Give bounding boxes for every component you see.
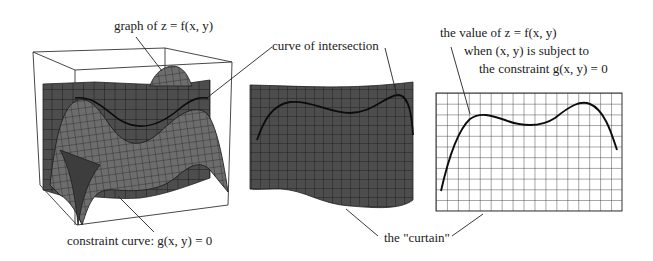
label-value-line1: the value of z = f(x, y)	[440, 25, 557, 40]
label-value-line2: when (x, y) is subject to	[464, 43, 589, 58]
label-curtain: the "curtain"	[384, 230, 450, 245]
leader-constraint	[118, 196, 154, 232]
label-graph: graph of z = f(x, y)	[114, 18, 213, 33]
label-constraint-curve: constraint curve: g(x, y) = 0	[67, 233, 212, 248]
curtain-panel	[250, 82, 413, 208]
label-value-line3: the constraint g(x, y) = 0	[479, 61, 608, 76]
label-curve-of-intersection: curve of intersection	[272, 38, 379, 53]
surface-panel	[33, 48, 232, 225]
leader-curtain-left	[346, 209, 378, 236]
graph-grid	[436, 93, 622, 211]
leader-curtain-right	[452, 214, 483, 236]
back-hump	[150, 66, 192, 86]
flattened-panel	[436, 93, 622, 211]
curtain-surface[interactable]	[250, 82, 413, 208]
